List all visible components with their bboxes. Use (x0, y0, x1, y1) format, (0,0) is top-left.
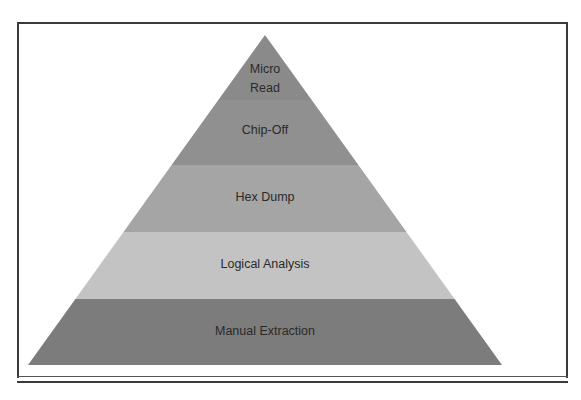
layer-label-micro: Micro (250, 62, 281, 76)
layer-label-read: Read (250, 81, 280, 95)
layer-label-logical-analysis: Logical Analysis (221, 257, 310, 271)
layer-label-hex-dump: Hex Dump (235, 190, 294, 204)
layer-label-chip-off: Chip-Off (242, 123, 289, 137)
layer-label-manual-extraction: Manual Extraction (215, 324, 315, 338)
pyramid-diagram: Micro Read Chip-Off Hex Dump Logical Ana… (0, 0, 581, 400)
